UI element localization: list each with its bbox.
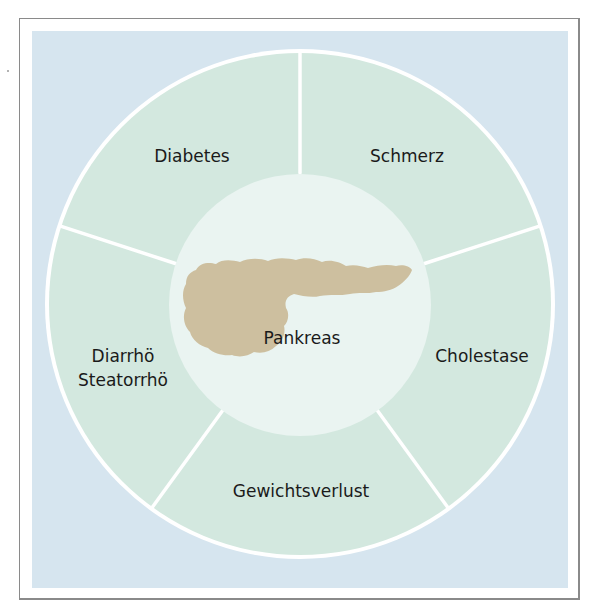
segment-label-diarrhoe: Diarrhö [92,346,155,366]
segment-label-cholestase: Cholestase [435,346,528,366]
segment-label-schmerz: Schmerz [370,146,444,166]
segment-label-gewichtsverlust: Gewichtsverlust [233,481,370,501]
segment-label-diabetes: Diabetes [154,146,230,166]
pancreas-symptom-diagram: Pankreas Diabetes Schmerz Cholestase Gew… [0,0,591,616]
center-label-pankreas: Pankreas [264,328,341,348]
segment-label-steatorrhoe: Steatorrhö [78,370,168,390]
